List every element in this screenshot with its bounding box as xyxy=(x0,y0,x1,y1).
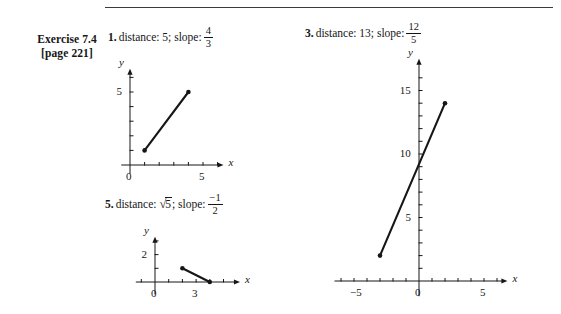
y-axis-arrow-icon xyxy=(416,59,421,65)
x-tick-label: 5 xyxy=(480,286,486,298)
x-axis-arrow-icon xyxy=(217,162,223,167)
problem-1-heading: 1.distance: 5; slope: 4 3 xyxy=(108,26,213,49)
problem-3-numerator: 12 xyxy=(406,22,421,33)
problem-1-numerator: 4 xyxy=(204,26,213,37)
graph-problem-5: 032xy xyxy=(133,222,253,302)
y-axis-label: y xyxy=(119,56,124,68)
graph-problem-1: 055xy xyxy=(108,58,228,178)
x-axis-label: x xyxy=(228,156,233,168)
problem-5-number: 5. xyxy=(105,198,114,210)
data-point-marker xyxy=(378,253,383,258)
problem-5-slope-fraction: −1 2 xyxy=(208,193,223,216)
y-tick-label: 15 xyxy=(400,84,411,96)
exercise-title: Exercise 7.4 xyxy=(28,33,106,47)
x-axis-arrow-icon xyxy=(501,278,507,283)
problem-1-text: distance: 5; slope: xyxy=(119,31,202,43)
exercise-label: Exercise 7.4 [page 221] xyxy=(28,33,106,60)
problem-5-numerator: −1 xyxy=(208,193,223,204)
problem-5-heading: 5.distance: √5; slope: −1 2 xyxy=(105,193,223,216)
data-segment xyxy=(145,92,189,150)
x-tick-label: 0 xyxy=(415,286,421,298)
problem-5-radicand: 5 xyxy=(165,197,172,210)
y-axis-arrow-icon xyxy=(152,237,157,243)
y-tick-label: 5 xyxy=(405,211,411,223)
y-axis-arrow-icon xyxy=(127,69,132,75)
y-tick-label: 2 xyxy=(141,248,147,260)
answer-key-page: Exercise 7.4 [page 221] 1.distance: 5; s… xyxy=(0,0,561,314)
x-tick-label: 3 xyxy=(192,287,198,299)
graph-3-canvas xyxy=(335,52,520,302)
problem-1-number: 1. xyxy=(108,31,117,43)
exercise-page-ref: [page 221] xyxy=(28,47,106,61)
problem-5-denominator: 2 xyxy=(208,206,223,217)
x-tick-label: 0 xyxy=(151,287,157,299)
x-axis-arrow-icon xyxy=(234,279,240,284)
data-point-marker xyxy=(180,266,185,271)
problem-3-number: 3. xyxy=(305,27,314,39)
x-axis-label: x xyxy=(245,273,250,285)
x-axis-label: x xyxy=(512,272,517,284)
problem-1-slope-fraction: 4 3 xyxy=(204,26,213,49)
data-point-marker xyxy=(208,280,213,285)
data-point-marker xyxy=(142,148,147,153)
problem-3-denominator: 5 xyxy=(406,35,421,46)
graph-1-canvas xyxy=(108,58,228,178)
x-tick-label: 5 xyxy=(199,170,205,182)
problem-3-heading: 3.distance: 13; slope: 12 5 xyxy=(305,22,421,45)
graph-problem-3: −50551015xy xyxy=(335,52,520,302)
problem-3-slope-fraction: 12 5 xyxy=(406,22,421,45)
problem-1-denominator: 3 xyxy=(204,39,213,50)
problem-5-text-before: distance: xyxy=(116,198,157,210)
square-root-expression: √5 xyxy=(157,197,173,211)
y-tick-label: 10 xyxy=(400,147,411,159)
x-tick-label: −5 xyxy=(350,286,362,298)
data-point-marker xyxy=(186,90,191,95)
y-axis-label: y xyxy=(408,46,413,58)
header-rule xyxy=(105,7,553,8)
data-segment xyxy=(380,103,445,255)
data-point-marker xyxy=(443,101,448,106)
y-tick-label: 5 xyxy=(116,85,122,97)
problem-3-text: distance: 13; slope: xyxy=(316,27,405,39)
y-axis-label: y xyxy=(144,224,149,236)
x-tick-label: 0 xyxy=(126,170,132,182)
problem-5-text-after: ; slope: xyxy=(172,198,206,210)
